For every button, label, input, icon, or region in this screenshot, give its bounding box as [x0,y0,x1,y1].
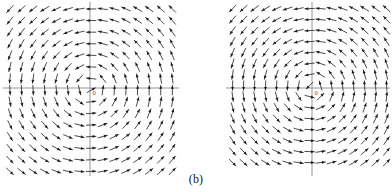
field-arrow-head [92,135,95,138]
field-arrow-head [299,129,303,132]
field-arrow-head [75,19,79,22]
field-arrow-head [160,109,163,113]
field-arrow-head [98,19,102,22]
field-arrow-head [294,7,298,10]
field-arrow-head [311,150,314,153]
field-arrow-head [125,109,128,113]
field-arrow-head [104,123,108,126]
field-arrow-head [80,112,84,115]
field-arrow-head [41,20,45,23]
field-arrow-head [242,76,245,80]
field-arrow-head [75,31,79,34]
field-arrow-head [288,162,292,165]
field-arrow-head [86,31,89,34]
field-arrow-head [148,85,151,88]
field-arrow-head [159,85,162,88]
field-arrow-head [311,117,314,120]
field-arrow-head [231,64,234,68]
field-arrow-head [385,81,388,84]
field-arrow-head [385,70,388,74]
field-arrow-head [332,139,336,142]
field-arrow-head [375,103,378,107]
field-arrow-head [242,64,245,68]
direction-field-svg-left: 0 [0,0,182,180]
field-arrow-head [243,108,246,112]
direction-field-panel-right: 0 [222,0,392,180]
direction-field-svg-right: 0 [222,0,392,180]
field-arrow-head [275,75,278,79]
field-arrow-head [75,54,79,57]
field-arrow-head [113,85,116,88]
field-arrow-head [104,135,108,138]
field-arrow-head [362,49,365,53]
field-arrow-head [275,87,278,90]
field-arrow-head [75,8,79,11]
field-arrow-head [9,103,12,107]
field-arrow-head [115,122,119,125]
field-arrow-head [300,161,304,164]
field-arrow-head [327,29,331,32]
field-arrow-head [338,7,342,10]
field-arrow-head [63,8,67,11]
field-arrow-head [98,30,102,33]
field-arrow-head [171,85,174,88]
field-arrow-head [32,91,35,94]
field-arrow-head [148,97,151,101]
field-arrow-head [147,63,150,67]
field-arrow-head [264,87,267,90]
field-arrow-head [104,158,108,161]
field-arrow-head [159,74,162,78]
field-arrow-head [254,108,257,112]
field-arrow-head [319,81,322,85]
field-arrow-head [316,62,320,65]
field-arrow-head [138,157,142,160]
field-arrow-head [300,150,304,153]
field-arrow-head [159,62,162,66]
field-arrow-head [69,147,73,150]
field-arrow-head [230,31,233,35]
field-arrow-head [92,123,95,126]
field-arrow-head [86,42,89,45]
field-arrow-head [265,119,268,123]
figure-container: 0 0 (b) [0,0,392,192]
field-arrow-head [124,74,127,78]
field-arrow-head [294,41,298,44]
field-arrow-head [134,18,138,21]
field-arrow-head [9,91,12,94]
field-arrow-head [115,158,119,161]
origin-label: 0 [93,89,96,96]
field-arrow-head [305,18,308,21]
field-arrow-head [311,161,314,164]
field-arrow-head [264,98,267,102]
field-arrow-head [283,8,287,11]
field-arrow-head [363,81,366,84]
field-arrow-head [311,139,314,142]
field-arrow-head [86,19,89,22]
field-arrow-head [283,19,287,22]
field-arrow-head [98,53,102,56]
field-arrow-head [86,65,89,68]
field-arrow-head [43,91,46,95]
field-arrow-head [294,52,298,55]
field-arrow-head [232,141,235,145]
origin-label: 0 [315,89,318,96]
field-arrow-head [136,85,139,88]
field-arrow-head [110,19,114,22]
field-arrow-head [354,149,358,152]
field-arrow-head [316,40,320,43]
field-arrow-head [8,56,11,60]
field-arrow-head [352,92,355,96]
field-arrow-head [64,55,68,58]
field-arrow-head [86,7,89,10]
field-arrow-head [242,87,245,90]
field-arrow-head [92,158,95,161]
field-arrow-head [125,97,128,101]
field-arrow-head [231,87,234,90]
field-arrow-head [231,76,234,80]
field-arrow-head [172,144,175,148]
field-arrow-head [322,139,326,142]
field-arrow-head [63,20,67,23]
field-arrow-head [352,81,355,85]
field-arrow-head [305,7,308,10]
field-arrow-head [305,73,309,76]
